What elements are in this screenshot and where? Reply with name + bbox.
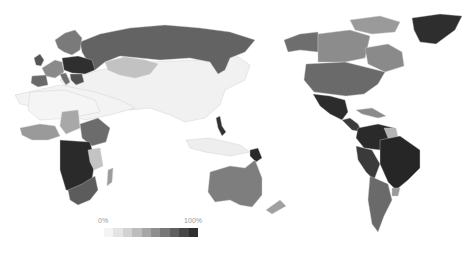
legend-step-3 <box>132 228 141 237</box>
region-uk[interactable] <box>34 54 44 66</box>
legend-step-6 <box>160 228 169 237</box>
region-philippines[interactable] <box>216 116 226 136</box>
region-canada-east[interactable] <box>365 44 404 72</box>
region-usa[interactable] <box>304 62 385 96</box>
region-canada[interactable] <box>318 30 370 62</box>
legend-step-9 <box>189 228 198 237</box>
region-scandinavia[interactable] <box>55 30 82 55</box>
legend-step-4 <box>142 228 151 237</box>
legend-step-5 <box>151 228 160 237</box>
region-italy[interactable] <box>60 73 70 85</box>
region-caribbean[interactable] <box>356 108 386 118</box>
region-iberia[interactable] <box>31 75 48 87</box>
world-choropleth-map <box>0 0 475 255</box>
region-brazil[interactable] <box>380 136 420 190</box>
legend-max-label: 100% <box>184 217 202 224</box>
region-west-africa[interactable] <box>20 124 60 140</box>
legend-step-1 <box>113 228 122 237</box>
region-andes[interactable] <box>356 146 380 180</box>
legend: 0% 100% <box>104 217 198 237</box>
region-indonesia[interactable] <box>186 138 250 156</box>
region-argentina-chile[interactable] <box>368 176 392 232</box>
region-arctic-islands[interactable] <box>350 16 400 34</box>
region-madagascar[interactable] <box>107 168 113 186</box>
legend-step-0 <box>104 228 113 237</box>
legend-min-label: 0% <box>98 217 108 224</box>
region-new-zealand[interactable] <box>266 200 286 214</box>
region-alaska[interactable] <box>284 32 318 52</box>
region-greenland[interactable] <box>412 14 462 44</box>
legend-step-7 <box>170 228 179 237</box>
region-mexico[interactable] <box>313 94 348 120</box>
legend-step-2 <box>123 228 132 237</box>
region-australia[interactable] <box>208 160 262 207</box>
region-papua-new-guinea[interactable] <box>250 148 262 162</box>
legend-step-8 <box>179 228 188 237</box>
region-sahel[interactable] <box>60 110 80 134</box>
region-uruguay[interactable] <box>392 188 400 196</box>
legend-color-scale <box>104 228 198 237</box>
